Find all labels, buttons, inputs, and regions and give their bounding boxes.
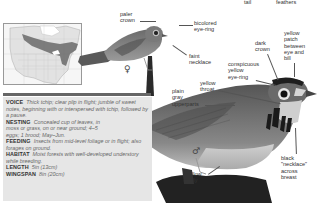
label-yellow-patch: yellow patch between eye and bill — [284, 30, 305, 61]
leader-line — [294, 63, 295, 77]
feeding-heading: FEEDING — [6, 138, 31, 144]
wingspan-entry: WINGSPAN 8in (20cm) — [6, 171, 149, 178]
wingspan-text: 8in (20cm) — [39, 171, 64, 177]
nesting-heading: NESTING — [6, 119, 31, 125]
length-text: 5in (13cm) — [32, 164, 57, 170]
voice-heading: VOICE — [6, 99, 23, 105]
label-tail: tail — [244, 0, 251, 5]
label-yellow-throat: yellow throat — [200, 80, 216, 93]
range-map — [3, 23, 82, 85]
label-black-necklace: black "necklace" across breast — [281, 155, 307, 180]
voice-text: Thick tchip; clear plip in flight; jumbl… — [6, 99, 148, 118]
section-divider — [3, 93, 151, 96]
label-yellow-belly: yellow belly — [186, 171, 202, 184]
north-america-map-icon — [4, 24, 82, 85]
label-bicolored-eye-ring: bicolored eye-ring — [194, 20, 217, 33]
male-symbol: ♂ — [192, 146, 200, 156]
habitat-heading: HABITAT — [6, 151, 30, 157]
wingspan-heading: WINGSPAN — [6, 171, 36, 177]
leader-line — [173, 45, 187, 55]
label-feathers: feathers — [276, 0, 296, 5]
label-plain-gray-upperparts: plain gray upperparts — [172, 88, 199, 107]
leader-line — [205, 105, 235, 106]
label-conspicuous-eye-ring: conspicuous yellow eye-ring — [228, 61, 259, 80]
field-guide-page: tail feathers — [0, 0, 317, 203]
species-info-box: VOICE Thick tchip; clear plip in flight;… — [3, 97, 152, 201]
leader-line — [179, 25, 193, 26]
label-dark-crown: dark crown — [255, 40, 270, 53]
habitat-entry: HABITAT Moist forests with well-develope… — [6, 151, 149, 164]
voice-entry: VOICE Thick tchip; clear plip in flight;… — [6, 99, 149, 119]
leader-line — [140, 21, 156, 22]
feeding-entry: FEEDING Insects from mid-level foliage o… — [6, 138, 149, 151]
label-paler-crown: paler crown — [120, 11, 135, 24]
length-heading: LENGTH — [6, 164, 29, 170]
label-faint-necklace: faint necklace — [189, 53, 211, 66]
nesting-entry: NESTING Concealed cup of leaves, in moss… — [6, 119, 149, 139]
